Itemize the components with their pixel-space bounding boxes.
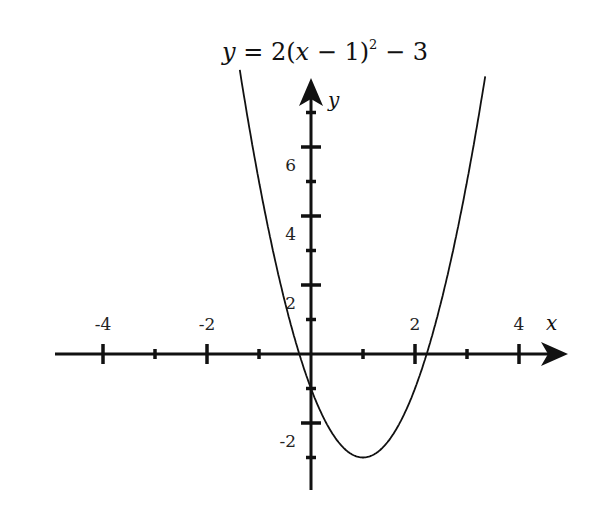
y-axis: 246-2 y	[279, 78, 340, 490]
chart-title: y = 2(x − 1)2 − 3	[221, 37, 428, 66]
y-tick-label: -2	[279, 431, 296, 451]
x-tick-label: -2	[199, 314, 216, 334]
x-tick-label: 4	[514, 314, 525, 334]
x-axis-label: x	[546, 311, 557, 335]
x-tick-label: 2	[410, 314, 421, 334]
y-tick-label: 6	[285, 155, 296, 175]
parabola-chart: y = 2(x − 1)2 − 3 -4-224 x 246-2 y	[0, 0, 603, 520]
parabola-curve	[240, 70, 485, 458]
y-axis-label: y	[327, 88, 340, 112]
x-tick-label: -4	[95, 314, 112, 334]
y-tick-label: 4	[285, 224, 296, 244]
